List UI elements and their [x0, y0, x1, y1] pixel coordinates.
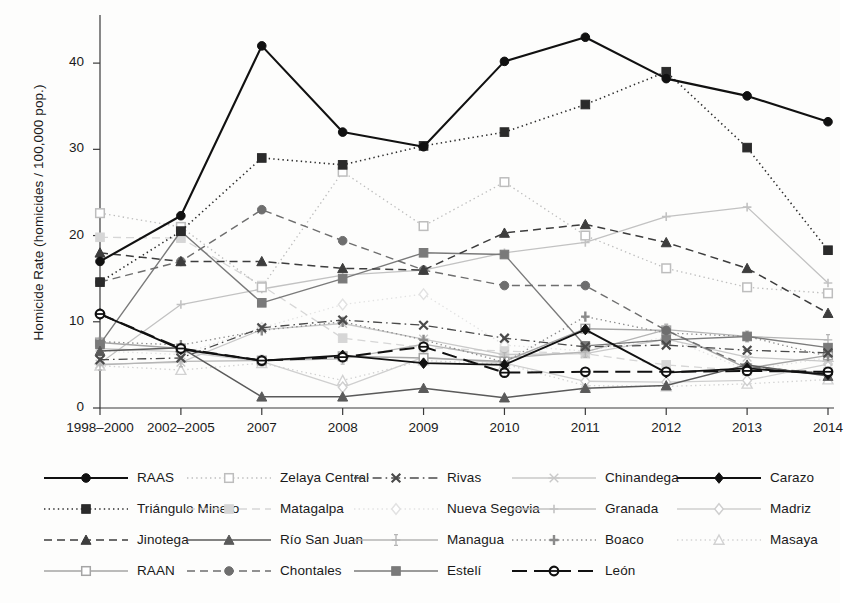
series-line: [100, 207, 828, 363]
marker-square-filled: [257, 154, 266, 163]
y-tick-label: 0: [50, 399, 84, 414]
marker-square-open: [743, 283, 752, 292]
legend-item-madriz[interactable]: Madriz: [675, 493, 811, 524]
marker-diamond-open: [392, 503, 401, 514]
legend-label: Masaya: [763, 532, 818, 547]
marker-plus: [177, 300, 186, 309]
legend-line-sample: [42, 467, 130, 489]
marker-square-filled: [743, 143, 752, 152]
legend-label: Río San Juan: [273, 532, 363, 547]
legend-line-sample: [675, 467, 763, 489]
marker-triangle-open: [714, 535, 724, 544]
legend-item-zelaya-central[interactable]: Zelaya Central: [185, 462, 369, 493]
legend-swatch: [42, 498, 130, 520]
marker-plus-bold: [550, 534, 559, 544]
legend-row: RAASZelaya CentralRivasChinandegaCarazo: [0, 462, 840, 493]
marker-plus-bold: [581, 312, 590, 322]
legend-swatch: [42, 467, 130, 489]
legend-item-masaya[interactable]: Masaya: [675, 524, 818, 555]
legend-row: JinotegaRío San JuanManaguaBoacoMasaya: [0, 524, 840, 555]
legend-line-sample: [510, 467, 598, 489]
legend-item-carazo[interactable]: Carazo: [675, 462, 814, 493]
marker-diamond-open: [419, 289, 428, 300]
legend-label: Madriz: [763, 501, 811, 516]
legend-line-sample: [42, 560, 130, 582]
marker-square-filled: [177, 227, 186, 236]
marker-circle-filled: [257, 205, 266, 214]
legend-swatch: [510, 560, 598, 582]
legend-line-sample: [42, 529, 130, 551]
marker-circle-filled: [662, 326, 671, 335]
legend-label: Rivas: [440, 470, 481, 485]
marker-square-open: [257, 283, 266, 292]
legend-swatch: [185, 560, 273, 582]
marker-square-filled: [338, 334, 347, 343]
y-tick-label: 10: [50, 313, 84, 328]
legend-item-raan[interactable]: RAAN: [42, 555, 175, 586]
x-tick-label: 2014: [773, 420, 848, 435]
marker-triangle-filled: [823, 308, 833, 317]
legend-label: Carazo: [763, 470, 814, 485]
legend-item-le-n[interactable]: León: [510, 555, 635, 586]
legend-line-sample: [510, 529, 598, 551]
marker-square-filled: [257, 299, 266, 308]
y-tick-label: 30: [50, 140, 84, 155]
legend-item-rivas[interactable]: Rivas: [352, 462, 481, 493]
y-tick-label: 20: [50, 227, 84, 242]
series-line: [100, 224, 828, 313]
legend-label: Managua: [440, 532, 504, 547]
marker-square-filled: [338, 274, 347, 283]
series-raas: [96, 33, 833, 266]
marker-triangle-filled: [742, 263, 752, 272]
legend-label: RAAN: [130, 563, 175, 578]
legend-item-managua[interactable]: Managua: [352, 524, 504, 555]
series-estel-: [96, 227, 833, 352]
marker-x: [419, 321, 428, 330]
series-granada: [96, 203, 833, 368]
series-layer: [94, 33, 834, 402]
marker-square-open: [581, 231, 590, 240]
legend-line-sample: [352, 560, 440, 582]
y-tick-label: 40: [50, 54, 84, 69]
marker-plus-serif: [392, 534, 401, 545]
marker-square-filled: [338, 161, 347, 170]
legend-line-sample: [42, 498, 130, 520]
legend-swatch: [42, 529, 130, 551]
legend-item-chinandega[interactable]: Chinandega: [510, 462, 679, 493]
marker-square-open: [500, 178, 509, 187]
legend-item-raas[interactable]: RAAS: [42, 462, 174, 493]
legend-item-chontales[interactable]: Chontales: [185, 555, 342, 586]
marker-triangle-filled: [580, 219, 590, 228]
legend-swatch: [675, 529, 763, 551]
legend-item-r-o-san-juan[interactable]: Río San Juan: [185, 524, 363, 555]
legend-item-boaco[interactable]: Boaco: [510, 524, 644, 555]
series-line: [100, 231, 828, 347]
marker-square-filled: [419, 249, 428, 258]
legend-item-granada[interactable]: Granada: [510, 493, 658, 524]
legend-line-sample: [185, 529, 273, 551]
marker-diamond-filled: [715, 472, 724, 483]
legend-label: RAAS: [130, 470, 174, 485]
plot-svg: [0, 0, 840, 455]
legend-item-jinotega[interactable]: Jinotega: [42, 524, 189, 555]
legend-swatch: [510, 529, 598, 551]
marker-circle-filled: [581, 281, 590, 290]
marker-square-filled: [500, 250, 509, 259]
legend-label: Estelí: [440, 563, 481, 578]
legend-row: RAANChontalesEstelíLeón: [0, 555, 840, 586]
marker-circle-filled: [257, 42, 266, 51]
legend-line-sample: [675, 529, 763, 551]
legend-swatch: [352, 467, 440, 489]
legend-swatch: [675, 498, 763, 520]
legend-item-matagalpa[interactable]: Matagalpa: [185, 493, 344, 524]
series-jinotega: [95, 219, 833, 317]
marker-square-open: [824, 289, 833, 298]
legend-item-estel-[interactable]: Estelí: [352, 555, 481, 586]
marker-square-filled: [581, 100, 590, 109]
marker-circle-filled: [500, 57, 509, 66]
marker-circle-filled: [581, 33, 590, 42]
series-le-n: [96, 310, 833, 377]
legend-label: Granada: [598, 501, 658, 516]
legend-line-sample: [510, 560, 598, 582]
